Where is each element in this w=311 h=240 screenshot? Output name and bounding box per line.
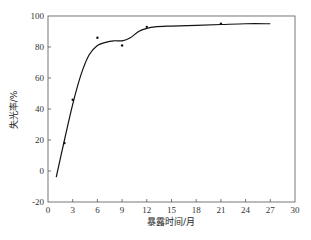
data-point — [72, 99, 74, 101]
fit-curve — [56, 24, 270, 178]
x-tick-label: 15 — [167, 205, 177, 215]
data-point — [121, 44, 123, 46]
y-tick-label: -20 — [32, 197, 44, 207]
y-axis-title: 失光率/% — [8, 90, 19, 129]
x-tick-label: 9 — [120, 205, 125, 215]
x-tick-label: 0 — [46, 205, 51, 215]
plot-frame — [48, 16, 295, 202]
y-tick-label: 60 — [35, 73, 45, 83]
x-axis-title: 暴露时间/月 — [147, 216, 195, 227]
x-tick-label: 21 — [216, 205, 225, 215]
x-tick-label: 6 — [95, 205, 100, 215]
data-point — [146, 26, 148, 28]
x-tick-label: 18 — [192, 205, 202, 215]
y-tick-label: 20 — [35, 135, 45, 145]
y-tick-label: 100 — [31, 11, 45, 21]
data-point — [220, 23, 222, 25]
data-point — [63, 142, 65, 144]
x-tick-label: 24 — [241, 205, 251, 215]
chart: 036912151821242730 -20020406080100 暴露时间/… — [0, 0, 311, 240]
y-tick-label: 80 — [35, 42, 45, 52]
x-tick-label: 27 — [266, 205, 276, 215]
x-tick-label: 3 — [70, 205, 75, 215]
x-axis-ticks: 036912151821242730 — [46, 199, 300, 215]
x-tick-label: 12 — [142, 205, 151, 215]
x-tick-label: 30 — [291, 205, 301, 215]
data-point — [96, 37, 98, 39]
y-tick-label: 40 — [35, 104, 45, 114]
y-tick-label: 0 — [40, 166, 45, 176]
data-points — [63, 23, 222, 145]
